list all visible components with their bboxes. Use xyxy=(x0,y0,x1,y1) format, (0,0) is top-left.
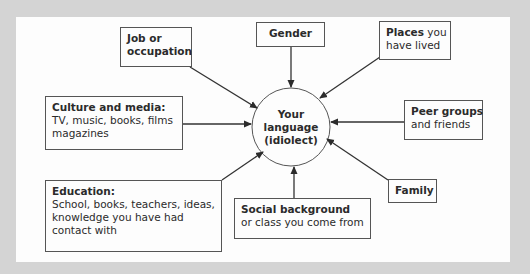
node-peer-groups: Peer groups and friends xyxy=(404,100,483,140)
peer-detail: and friends xyxy=(411,118,476,131)
node-places-lived: Places you have lived xyxy=(379,21,451,60)
center-line-2: language xyxy=(264,121,319,134)
peer-title: Peer groups xyxy=(411,105,476,118)
node-culture-media: Culture and media: TV, music, books, fil… xyxy=(45,96,183,150)
node-social-background: Social background or class you come from xyxy=(234,198,371,239)
arrow-family xyxy=(327,139,388,180)
education-detail-2: knowledge you have had xyxy=(52,211,215,224)
social-detail: or class you come from xyxy=(241,216,364,229)
node-job-occupation: Job or occupation xyxy=(120,27,192,67)
center-line-1: Your xyxy=(278,108,305,121)
culture-detail-1: TV, music, books, films xyxy=(52,114,176,127)
job-title-2: occupation xyxy=(127,45,185,58)
center-line-3: (idiolect) xyxy=(264,134,318,147)
node-gender: Gender xyxy=(256,22,325,47)
education-detail-3: contact with xyxy=(52,224,215,237)
culture-title: Culture and media: xyxy=(52,101,176,114)
gender-title: Gender xyxy=(269,27,312,39)
culture-detail-2: magazines xyxy=(52,127,176,140)
job-title: Job or xyxy=(127,32,185,45)
node-education: Education: School, books, teachers, idea… xyxy=(45,180,222,252)
places-title: Places xyxy=(386,26,424,38)
node-family: Family xyxy=(388,179,437,203)
places-detail-inline: you xyxy=(424,26,447,38)
education-title: Education: xyxy=(52,185,215,198)
family-title: Family xyxy=(395,184,434,196)
center-node-your-language: Your language (idiolect) xyxy=(252,88,330,166)
arrow-job xyxy=(190,67,257,108)
education-detail-1: School, books, teachers, ideas, xyxy=(52,198,215,211)
places-detail: have lived xyxy=(386,39,444,52)
social-title: Social background xyxy=(241,203,364,216)
